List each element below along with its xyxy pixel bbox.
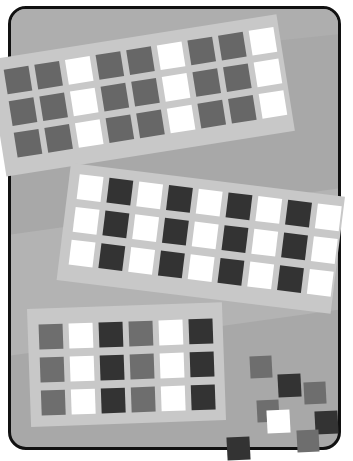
grid-square bbox=[131, 78, 160, 107]
scattered-square bbox=[226, 436, 250, 460]
grid-square bbox=[39, 93, 68, 122]
grid-square bbox=[191, 384, 216, 410]
grid-square bbox=[255, 196, 282, 224]
grid-square bbox=[126, 46, 155, 75]
bottom-card-grid bbox=[39, 319, 216, 416]
grid-square bbox=[249, 27, 278, 56]
grid-square bbox=[166, 185, 193, 213]
grid-square bbox=[9, 97, 38, 126]
grid-square bbox=[106, 178, 133, 206]
grid-square bbox=[44, 124, 73, 153]
grid-square bbox=[4, 66, 33, 95]
grid-square bbox=[197, 100, 226, 129]
grid-square bbox=[254, 59, 283, 88]
grid-square bbox=[251, 229, 278, 257]
grid-square bbox=[65, 56, 94, 85]
grid-square bbox=[100, 355, 125, 381]
grid-square bbox=[226, 192, 253, 220]
grid-square bbox=[315, 203, 342, 231]
grid-square bbox=[70, 356, 95, 382]
grid-square bbox=[277, 265, 304, 293]
grid-square bbox=[101, 388, 126, 414]
grid-square bbox=[223, 63, 252, 92]
grid-square bbox=[161, 386, 186, 412]
grid-square bbox=[75, 119, 104, 148]
grid-square bbox=[73, 207, 100, 235]
grid-square bbox=[196, 189, 223, 217]
grid-square bbox=[98, 243, 125, 271]
scattered-square bbox=[296, 429, 319, 452]
grid-square bbox=[307, 269, 334, 297]
grid-square bbox=[188, 254, 215, 282]
grid-square bbox=[131, 387, 156, 413]
grid-square bbox=[167, 105, 196, 134]
grid-square bbox=[77, 174, 104, 202]
grid-square bbox=[96, 51, 125, 80]
grid-square bbox=[259, 90, 288, 119]
grid-square bbox=[14, 129, 43, 158]
grid-square bbox=[228, 95, 257, 124]
grid-square bbox=[101, 83, 130, 112]
grid-square bbox=[128, 321, 153, 347]
grid-square bbox=[281, 232, 308, 260]
grid-square bbox=[34, 61, 63, 90]
grid-square bbox=[136, 181, 163, 209]
grid-square bbox=[128, 247, 155, 275]
grid-square bbox=[39, 324, 64, 350]
bottom-card bbox=[27, 302, 226, 427]
grid-square bbox=[162, 218, 189, 246]
grid-square bbox=[99, 322, 124, 348]
grid-square bbox=[40, 357, 65, 383]
scattered-square bbox=[277, 373, 301, 397]
grid-square bbox=[247, 262, 274, 290]
grid-square bbox=[192, 68, 221, 97]
grid-square bbox=[41, 390, 66, 416]
grid-square bbox=[157, 42, 186, 71]
grid-square bbox=[311, 236, 338, 264]
middle-card-grid bbox=[69, 174, 342, 296]
grid-square bbox=[162, 73, 191, 102]
grid-square bbox=[106, 114, 135, 143]
grid-square bbox=[69, 323, 94, 349]
grid-square bbox=[217, 258, 244, 286]
grid-square bbox=[192, 222, 219, 250]
scattered-square bbox=[249, 355, 272, 378]
grid-square bbox=[136, 110, 165, 139]
grid-square bbox=[188, 319, 213, 345]
grid-square bbox=[71, 389, 96, 415]
scattered-square bbox=[266, 409, 290, 433]
grid-square bbox=[130, 354, 155, 380]
grid-square bbox=[132, 214, 159, 242]
grid-square bbox=[285, 200, 312, 228]
grid-square bbox=[218, 32, 247, 61]
grid-square bbox=[102, 211, 129, 239]
grid-square bbox=[222, 225, 249, 253]
grid-square bbox=[190, 352, 215, 378]
grid-square bbox=[158, 251, 185, 279]
grid-square bbox=[69, 240, 96, 268]
scattered-square bbox=[303, 381, 326, 404]
grid-square bbox=[158, 320, 183, 346]
grid-square bbox=[70, 88, 99, 117]
grid-square bbox=[187, 37, 216, 66]
grid-square bbox=[160, 353, 185, 379]
